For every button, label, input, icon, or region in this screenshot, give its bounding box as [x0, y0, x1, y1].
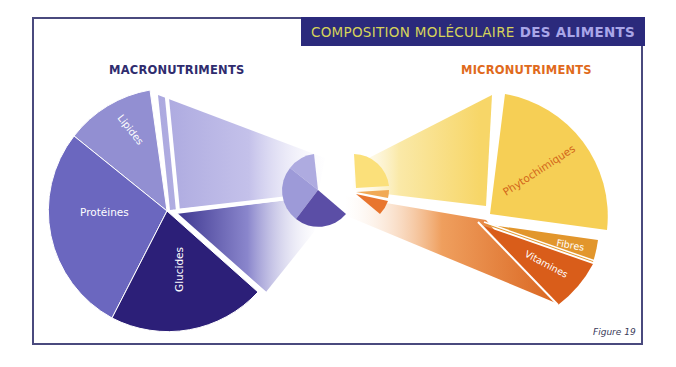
label-glucides: Glucides: [173, 247, 185, 292]
nutrient-pie-diagram: Lipides Protéines Glucides Phytochimique…: [0, 0, 676, 367]
figure-caption: Figure 19: [593, 327, 636, 337]
label-proteines: Protéines: [80, 206, 129, 218]
phyto-cone: [352, 95, 492, 206]
